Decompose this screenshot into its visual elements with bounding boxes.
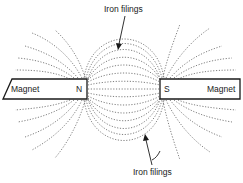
field-lines-between-poles — [84, 39, 164, 141]
top-callout-label: Iron filings — [104, 5, 143, 14]
top-callout-arrow — [116, 16, 125, 50]
s-pole-label: S — [164, 85, 170, 94]
n-pole-label: N — [76, 85, 82, 94]
right-magnet-label: Magnet — [207, 85, 235, 94]
left-magnet-label: Magnet — [11, 85, 39, 94]
bottom-callout-arrow — [143, 134, 160, 165]
bottom-callout-label: Iron filings — [133, 168, 172, 177]
